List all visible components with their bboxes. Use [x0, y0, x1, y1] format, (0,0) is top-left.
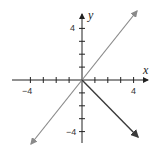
- x-axis-label: x: [143, 64, 148, 76]
- graph-svg: [0, 0, 157, 150]
- x-tick-label-neg4: −4: [22, 87, 32, 96]
- ray-y-equals-neg-x: [82, 80, 138, 137]
- y-tick-label-pos4: 4: [70, 24, 75, 33]
- y-axis-label: y: [88, 9, 93, 21]
- x-tick-label-pos4: 4: [131, 87, 136, 96]
- graph-canvas: x y −4 4 4 −4: [0, 0, 157, 150]
- y-tick-label-neg4: −4: [66, 128, 76, 137]
